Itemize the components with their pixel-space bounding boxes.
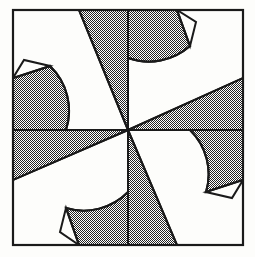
figure-root: Eight-Pointed Star Quilt Block xyxy=(0,0,255,257)
quilt-block-pattern xyxy=(0,0,255,257)
